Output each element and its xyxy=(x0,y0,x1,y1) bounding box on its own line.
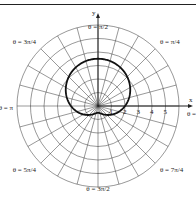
radial-tick-label: 5 xyxy=(164,108,168,116)
radial-tick-label: 3 xyxy=(137,108,141,116)
angle-label-pi4: θ = π/4 xyxy=(160,38,180,46)
angle-label-3pi4: θ = 3π/4 xyxy=(13,38,37,46)
x-axis-label: x xyxy=(189,96,193,104)
grid-ray xyxy=(28,106,98,147)
radial-tick-label: 1 xyxy=(110,108,114,116)
grid-ray xyxy=(98,36,139,106)
polar-chart: xy 12345 θ = 0θ = π/4θ = π/2θ = 3π/4θ = … xyxy=(0,0,196,200)
grid-ray xyxy=(28,66,98,107)
x-axis-arrow xyxy=(188,104,193,108)
angle-label-pi2: θ = π/2 xyxy=(88,23,108,31)
angle-label-zero: θ = 0 xyxy=(187,110,196,118)
grid-ray xyxy=(58,106,99,176)
angle-label-5pi4: θ = 5π/4 xyxy=(13,166,37,174)
radial-tick-label: 2 xyxy=(123,108,127,116)
angle-label-3pi2: θ = 3π/2 xyxy=(86,185,110,193)
grid-ray xyxy=(98,106,139,176)
angle-label-7pi4: θ = 7π/4 xyxy=(160,166,184,174)
angle-label-pi: θ = π xyxy=(0,104,13,112)
grid-ray xyxy=(58,36,99,106)
y-axis-label: y xyxy=(92,9,96,17)
grid-ray xyxy=(98,66,168,107)
y-axis-arrow xyxy=(96,13,100,18)
radial-tick-label: 4 xyxy=(150,108,154,116)
